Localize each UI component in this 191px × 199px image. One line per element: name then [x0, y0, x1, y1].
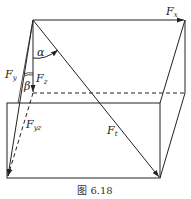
bottom-right-slant-edge — [160, 93, 185, 178]
fyz-vector — [8, 93, 33, 176]
label-fx: Fx — [165, 5, 178, 19]
beta-arc — [24, 73, 33, 74]
front-face — [7, 103, 160, 178]
label-fz: Fz — [35, 72, 48, 86]
label-alpha: α — [37, 46, 45, 59]
label-beta: β — [23, 80, 30, 93]
figure-caption: 图 6.18 — [77, 185, 112, 196]
label-fyz: Fyz — [25, 118, 42, 132]
force-decomposition-diagram: Fx Fy Fz Fyz Ft α β 图 6.18 — [0, 0, 191, 199]
beta-arc-2 — [24, 75, 33, 76]
label-fy: Fy — [4, 68, 18, 82]
fy-vector — [8, 20, 33, 176]
ft-vector — [33, 20, 159, 177]
top-right-slant-edge — [160, 20, 185, 103]
label-ft: Ft — [106, 124, 118, 138]
